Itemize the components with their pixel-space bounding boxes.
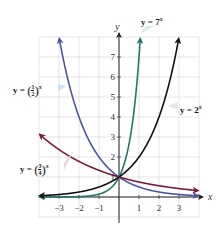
svg-text:x: x (207, 191, 213, 202)
svg-text:1: 1 (137, 203, 142, 213)
svg-text:−3: −3 (54, 203, 64, 213)
svg-text:5: 5 (111, 92, 116, 102)
label-half-power-x: y = (12)x (8, 78, 47, 100)
svg-text:7: 7 (111, 52, 116, 62)
curve-y-7-x (40, 39, 140, 197)
svg-text:−1: −1 (94, 203, 104, 213)
tick-labels: −3−2−11231234567 (54, 52, 182, 213)
svg-text:−2: −2 (74, 203, 84, 213)
svg-text:2: 2 (111, 152, 116, 162)
svg-text:3: 3 (177, 203, 182, 213)
svg-text:y: y (114, 21, 120, 32)
curve-y-2-x (40, 39, 179, 196)
label-three-quarter-power-x: y = (34)x (15, 157, 54, 179)
svg-text:2: 2 (157, 203, 162, 213)
axes: xy (39, 21, 213, 223)
label-two-power-x: y = 2x (175, 98, 207, 119)
svg-text:3: 3 (111, 132, 116, 142)
svg-text:6: 6 (111, 72, 116, 82)
svg-text:4: 4 (111, 112, 116, 122)
label-seven-power-x: y = 7x (136, 10, 168, 31)
